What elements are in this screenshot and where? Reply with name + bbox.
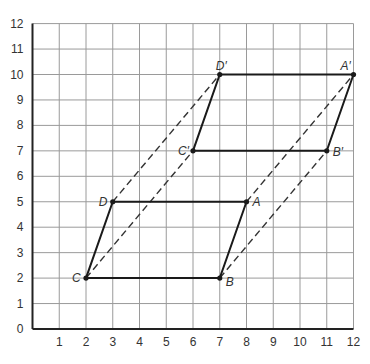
y-tick-label: 6 (17, 169, 24, 183)
y-tick-label: 3 (17, 246, 24, 260)
point-label-A-prime: A′ (340, 59, 352, 73)
x-tick-label: 11 (321, 335, 334, 349)
point-label-C-prime: C′ (178, 144, 190, 158)
x-tick-label: 1 (56, 335, 63, 349)
y-tick-label: 5 (17, 195, 24, 209)
point-A (244, 199, 249, 204)
point-label-C: C (72, 271, 81, 285)
x-tick-label: 5 (163, 335, 170, 349)
x-tick-label: 7 (216, 335, 223, 349)
y-tick-label: 7 (17, 144, 24, 158)
x-tick-label: 6 (190, 335, 197, 349)
y-tick-label: 9 (17, 93, 24, 107)
point-label-A: A (252, 195, 261, 209)
y-tick-label: 8 (17, 118, 24, 132)
y-tick-label: 12 (10, 17, 24, 31)
y-tick-label: 11 (11, 42, 24, 56)
coordinate-grid-diagram: 1234567891011120123456789101112 ABCDA′B′… (0, 0, 370, 364)
x-tick-label: 9 (270, 335, 277, 349)
y-tick-label: 1 (17, 297, 24, 311)
point-B (217, 276, 222, 281)
point-D (110, 199, 115, 204)
y-tick-label: 0 (17, 322, 24, 336)
point-B-prime (324, 148, 329, 153)
point-label-B-prime: B′ (333, 145, 344, 159)
point-A-prime (351, 72, 356, 77)
point-label-B: B (226, 275, 234, 289)
y-tick-label: 2 (17, 271, 24, 285)
point-D-prime (217, 72, 222, 77)
x-tick-label: 10 (293, 335, 307, 349)
point-C-prime (190, 148, 195, 153)
x-tick-label: 2 (83, 335, 90, 349)
point-label-D-prime: D′ (216, 59, 228, 73)
x-tick-label: 4 (136, 335, 143, 349)
x-tick-label: 8 (243, 335, 250, 349)
point-C (83, 276, 88, 281)
x-tick-label: 3 (109, 335, 116, 349)
tick-labels: 1234567891011120123456789101112 (10, 17, 360, 349)
x-tick-label: 12 (347, 335, 361, 349)
y-tick-label: 4 (17, 220, 24, 234)
y-tick-label: 10 (10, 68, 24, 82)
point-label-D: D (99, 195, 108, 209)
